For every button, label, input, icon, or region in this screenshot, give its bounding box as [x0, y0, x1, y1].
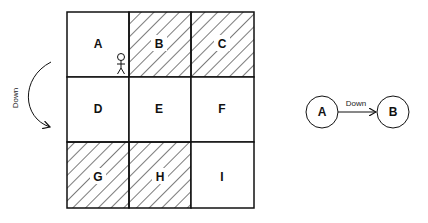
- down-action-arrow: Down: [11, 62, 51, 127]
- cell-label-d: D: [94, 102, 103, 116]
- state-node-b-label: B: [389, 105, 398, 119]
- cell-label-f: F: [218, 102, 225, 116]
- cell-label-g: G: [93, 170, 102, 184]
- transition-graph: A B Down: [306, 96, 409, 128]
- grid: A B C D E F G H I: [67, 12, 254, 208]
- cell-label-b: B: [155, 37, 164, 51]
- transition-edge-label: Down: [346, 99, 366, 108]
- state-node-a-label: A: [318, 105, 327, 119]
- diagram-canvas: A B C D E F G H I Down A B Down: [0, 0, 428, 223]
- cell-label-a: A: [94, 37, 103, 51]
- action-arrow-label: Down: [11, 88, 20, 108]
- cell-label-h: H: [156, 170, 165, 184]
- cell-label-c: C: [218, 37, 227, 51]
- cell-label-i: I: [220, 170, 223, 184]
- curved-arrow-icon: [28, 62, 51, 127]
- cell-label-e: E: [155, 102, 163, 116]
